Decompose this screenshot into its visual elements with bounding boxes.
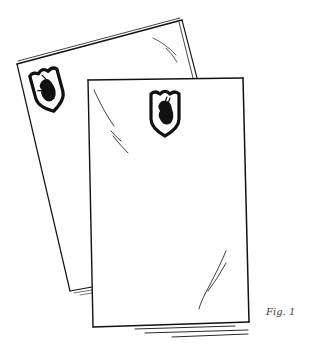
shield-emblem-icon — [151, 92, 179, 137]
stationery-illustration — [0, 0, 311, 346]
front-sheet — [88, 78, 249, 337]
figure-caption: Fig. 1 — [266, 306, 295, 317]
